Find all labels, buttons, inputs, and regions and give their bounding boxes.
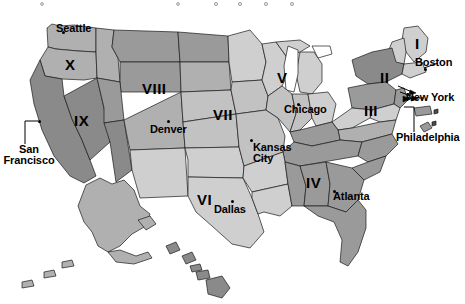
leader-philadelphia [404,107,414,132]
district-label-VIII: VIII [142,81,167,96]
inset-metro-speck-b [432,121,436,126]
district-label-I: I [415,36,420,51]
inset-aleutians-c [22,280,34,288]
district-label-IV: IV [306,175,321,190]
city-label-dallas: Dallas [214,204,246,215]
city-dot-boston [424,68,427,71]
city-label-san-francisco: San Francisco [0,144,58,166]
city-dot-san-francisco [38,120,41,123]
state-florida [304,200,366,266]
district-label-X: X [65,57,76,72]
inset-hawaii-kauai [166,242,180,254]
inset-hawaii-maui [196,270,210,280]
scan-artifacts [41,2,294,5]
inset-aleutians-b [44,270,56,278]
city-label-seattle: Seattle [56,23,91,34]
inset-metro-speck-a [434,109,438,114]
state-newmexico [130,148,188,198]
city-label-denver: Denver [150,124,187,135]
district-label-VII: VII [213,107,233,122]
state-northdakota [178,32,229,62]
inset-hawaii-bigisland [206,276,230,298]
state-montana [112,30,180,62]
state-southdakota [180,62,231,92]
inset-newyork-metro [414,106,432,116]
inset-hawaii-molokai [190,264,202,272]
city-label-chicago: Chicago [284,104,327,115]
district-label-III: III [364,103,378,118]
inset-alaska-tail [108,250,152,264]
inset-aleutians-a [62,260,74,268]
district-label-V: V [277,70,288,85]
city-label-new-york: New York [406,92,454,103]
state-oklahoma [185,147,244,178]
city-label-kansas-city: Kansas City [253,142,292,164]
district-label-II: II [380,70,389,85]
state-iowa [231,80,268,114]
city-label-atlanta: Atlanta [333,191,370,202]
state-colorado [124,92,185,150]
leader-san-francisco [25,121,38,144]
city-label-philadelphia: Philadelphia [396,132,460,143]
state-tennessee [283,140,362,166]
district-label-VI: VI [197,192,212,207]
state-minnesota [228,30,266,82]
district-label-IX: IX [74,113,89,128]
us-federal-reserve-district-map: I II III IV V VI VII VIII IX X Seattle S… [0,0,465,304]
inset-hawaii-oahu [182,252,196,264]
map-graphic [0,0,465,304]
city-label-boston: Boston [415,57,452,68]
